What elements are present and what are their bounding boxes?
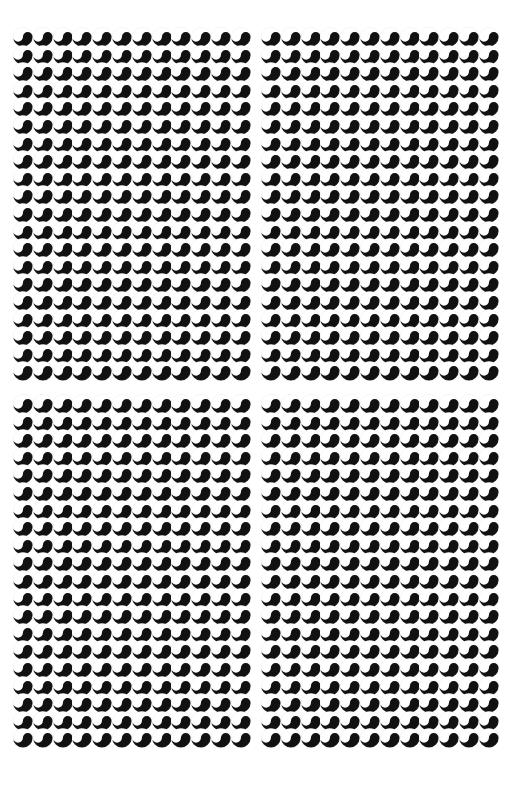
disc-row [13, 361, 251, 381]
tadpole-disc [152, 361, 172, 381]
tadpole-disc [459, 361, 479, 381]
panel-top-left [13, 27, 251, 381]
tadpole-disc [400, 728, 420, 748]
tadpole-disc [72, 361, 92, 381]
tadpole-disc [459, 728, 479, 748]
tadpole-disc [132, 361, 152, 381]
tadpole-disc [281, 361, 301, 381]
tadpole-disc [211, 728, 231, 748]
disc-row [261, 361, 499, 381]
tadpole-disc [191, 728, 211, 748]
tadpole-disc [171, 361, 191, 381]
tadpole-disc [53, 728, 73, 748]
tadpole-disc [439, 361, 459, 381]
tadpole-disc [191, 361, 211, 381]
tadpole-disc [13, 728, 33, 748]
tadpole-disc [231, 728, 251, 748]
tadpole-disc [231, 361, 251, 381]
tadpole-disc [360, 361, 380, 381]
tadpole-disc [419, 361, 439, 381]
tadpole-disc [340, 728, 360, 748]
tadpole-disc [92, 728, 112, 748]
tadpole-disc [261, 361, 281, 381]
tadpole-disc [439, 728, 459, 748]
tadpole-disc [320, 728, 340, 748]
tadpole-disc [112, 728, 132, 748]
tadpole-disc [380, 361, 400, 381]
tadpole-disc [360, 728, 380, 748]
panel-bottom-left [13, 394, 251, 748]
tadpole-disc [281, 728, 301, 748]
tadpole-disc [400, 361, 420, 381]
tadpole-disc [53, 361, 73, 381]
tadpole-disc [320, 361, 340, 381]
tadpole-disc [479, 361, 499, 381]
tadpole-disc [33, 728, 53, 748]
disc-row [261, 728, 499, 748]
tadpole-disc [152, 728, 172, 748]
tadpole-disc [72, 728, 92, 748]
tadpole-disc [419, 728, 439, 748]
tadpole-disc [380, 728, 400, 748]
tadpole-disc [301, 361, 321, 381]
page-title: Tadpole / yin-yang disc grid optical ill… [0, 21, 1, 22]
tadpole-disc [301, 728, 321, 748]
panel-bottom-right [261, 394, 499, 748]
tadpole-disc [479, 728, 499, 748]
disc-row [13, 728, 251, 748]
tadpole-disc [92, 361, 112, 381]
tadpole-disc [261, 728, 281, 748]
tadpole-disc [132, 728, 152, 748]
tadpole-disc [340, 361, 360, 381]
tadpole-disc [13, 361, 33, 381]
panel-top-right [261, 27, 499, 381]
tadpole-disc [211, 361, 231, 381]
tadpole-disc [171, 728, 191, 748]
figure-canvas: Tadpole / yin-yang disc grid optical ill… [0, 0, 519, 797]
tadpole-disc [33, 361, 53, 381]
tadpole-disc [112, 361, 132, 381]
